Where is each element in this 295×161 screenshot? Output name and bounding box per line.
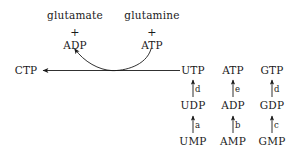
reaction-diagram: glutamate glutamine + + ADP ATP CTP UTP … — [0, 0, 295, 161]
arrow-overlay — [0, 0, 295, 161]
arrow-atp-to-adp-curve — [75, 49, 152, 71]
